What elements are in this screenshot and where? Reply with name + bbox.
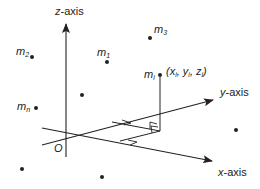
- z-axis-label: z-axis: [54, 5, 84, 17]
- mass-point-mi: mi (xi, yi, zi): [144, 65, 207, 81]
- x-axis: [42, 128, 212, 161]
- unlabeled-point: [80, 93, 84, 97]
- y-axis: [42, 100, 213, 145]
- mass-label-m3: m3: [154, 23, 167, 36]
- unlabeled-point: [234, 128, 238, 132]
- mass-label-m1: m1: [97, 46, 110, 59]
- mi-coordinates: (xi, yi, zi): [166, 65, 207, 78]
- mass-label-mn: mn: [17, 100, 30, 113]
- unlabeled-point: [100, 175, 104, 179]
- origin-label: O: [54, 142, 63, 154]
- diagram-canvas: z-axis y-axis x-axis O m2 m1 m3 mn mi (x…: [0, 0, 260, 189]
- unlabeled-point: [20, 167, 24, 171]
- x-axis-label: x-axis: [217, 166, 247, 178]
- mass-point-m3: m3: [148, 23, 167, 40]
- mass-label-mi: mi: [144, 68, 155, 81]
- mass-label-m2: m2: [16, 45, 29, 58]
- y-axis-label: y-axis: [219, 86, 249, 98]
- projection-lines: [112, 77, 160, 145]
- mass-point-m2: m2: [16, 45, 34, 59]
- mass-point-m1: m1: [97, 46, 110, 64]
- mass-point-mn: mn: [17, 100, 38, 113]
